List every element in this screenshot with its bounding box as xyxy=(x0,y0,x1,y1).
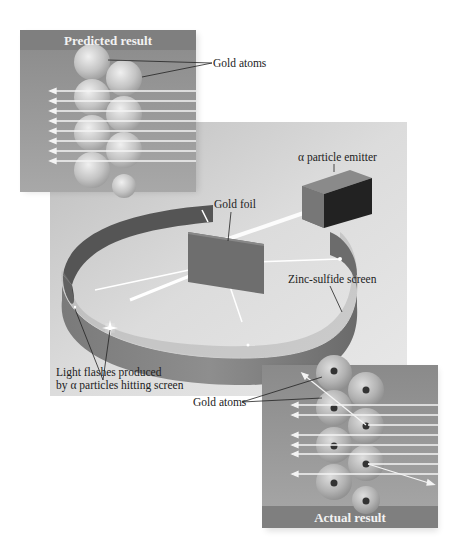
predicted-gold-atoms-label: Gold atoms xyxy=(213,57,266,70)
gold-foil-label: Gold foil xyxy=(214,198,256,211)
screen-label: Zinc-sulfide screen xyxy=(288,273,376,286)
actual-result-title: Actual result xyxy=(262,510,438,526)
gold-foil-diagram xyxy=(0,0,458,548)
emitter-label: α particle emitter xyxy=(298,151,377,164)
flashes-label-line2: by α particles hitting screen xyxy=(56,379,183,392)
predicted-result-panel xyxy=(20,30,212,198)
actual-result-panel xyxy=(242,355,438,531)
flashes-label-line1: Light flashes produced xyxy=(56,366,161,379)
actual-gold-atoms-label: Gold atoms xyxy=(193,396,246,409)
predicted-result-title: Predicted result xyxy=(20,33,196,49)
